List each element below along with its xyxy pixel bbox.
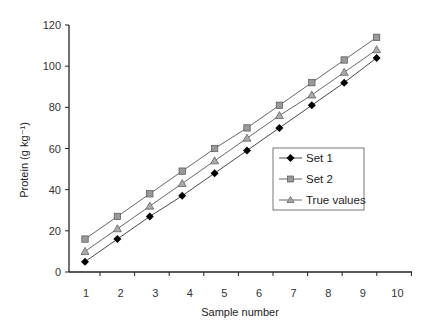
diamond-marker-icon (211, 169, 219, 177)
diamond-marker-icon (243, 147, 251, 155)
x-tick-label: 6 (256, 287, 262, 299)
square-marker-icon (244, 125, 250, 131)
diamond-marker-icon (113, 235, 121, 243)
x-tick-label: 8 (325, 287, 331, 299)
x-axis-title: Sample number (201, 306, 279, 318)
protein-chart: 020406080100120 12345678910 Sample numbe… (0, 0, 432, 335)
square-marker-icon (341, 57, 347, 63)
y-axis: 020406080100120 (43, 19, 69, 278)
triangle-marker-icon (178, 179, 186, 186)
triangle-marker-icon (373, 46, 381, 53)
triangle-marker-icon (211, 157, 219, 164)
y-tick-label: 40 (49, 184, 61, 196)
triangle-marker-icon (113, 225, 121, 232)
square-marker-icon (211, 145, 217, 151)
square-marker-icon (82, 236, 88, 242)
triangle-marker-icon (146, 202, 154, 209)
y-axis-title: Protein (g kg⁻¹) (18, 122, 30, 198)
legend-label: True values (306, 194, 366, 206)
x-tick-label: 9 (360, 287, 366, 299)
x-tick-label: 7 (291, 287, 297, 299)
diamond-marker-icon (373, 54, 381, 62)
diamond-marker-icon (275, 124, 283, 132)
y-tick-label: 80 (49, 101, 61, 113)
x-tick-label: 3 (152, 287, 158, 299)
x-tick-label: 10 (391, 287, 403, 299)
x-tick-label: 1 (83, 287, 89, 299)
y-tick-label: 20 (49, 225, 61, 237)
triangle-marker-icon (340, 68, 348, 75)
x-tick-label: 4 (187, 287, 193, 299)
square-marker-icon (179, 168, 185, 174)
diamond-marker-icon (81, 258, 89, 266)
square-marker-icon (147, 191, 153, 197)
x-axis: 12345678910 (69, 272, 412, 299)
y-tick-label: 60 (49, 143, 61, 155)
y-tick-label: 100 (43, 60, 61, 72)
series-set-2 (82, 34, 380, 242)
triangle-marker-icon (243, 134, 251, 141)
x-tick-label: 2 (118, 287, 124, 299)
square-marker-icon (276, 102, 282, 108)
square-marker-icon (309, 79, 315, 85)
square-marker-icon (114, 213, 120, 219)
triangle-marker-icon (308, 91, 316, 98)
triangle-marker-icon (275, 112, 283, 119)
square-marker-icon (288, 176, 294, 182)
legend-label: Set 2 (306, 173, 333, 185)
diamond-marker-icon (340, 79, 348, 87)
legend-label: Set 1 (306, 152, 333, 164)
legend: Set 1 Set 2 True values (273, 148, 366, 210)
diamond-marker-icon (178, 192, 186, 200)
y-tick-label: 0 (55, 266, 61, 278)
square-marker-icon (373, 34, 379, 40)
triangle-marker-icon (81, 247, 89, 254)
diamond-marker-icon (146, 212, 154, 220)
x-tick-label: 5 (221, 287, 227, 299)
y-tick-label: 120 (43, 19, 61, 31)
diamond-marker-icon (308, 101, 316, 109)
